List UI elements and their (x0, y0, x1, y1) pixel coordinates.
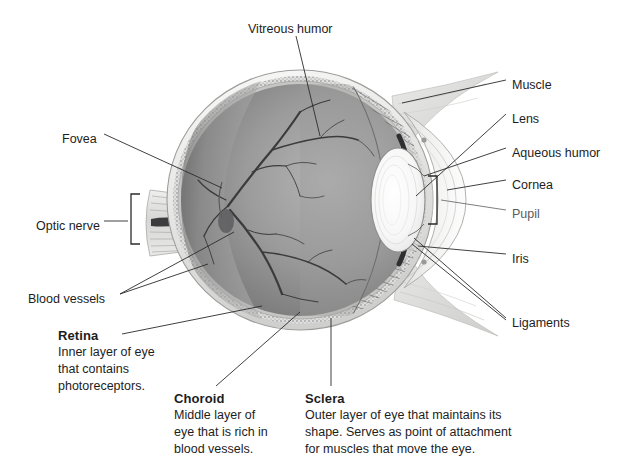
label-fovea: Fovea (62, 131, 97, 148)
optic-nerve-bracket (131, 194, 140, 244)
label-cornea: Cornea (512, 177, 553, 194)
label-optic-nerve: Optic nerve (36, 218, 100, 235)
lens-structure (371, 148, 425, 252)
label-blood-vessels: Blood vessels (28, 291, 105, 308)
definition-sclera-body: Outer layer of eye that maintains its sh… (305, 407, 511, 457)
definition-sclera: Sclera Outer layer of eye that maintains… (305, 390, 511, 457)
definition-choroid: Choroid Middle layer of eye that is rich… (174, 390, 268, 457)
definition-choroid-body: Middle layer of eye that is rich in bloo… (174, 407, 268, 457)
definition-retina-heading: Retina (58, 327, 155, 344)
limbus-marker-top (421, 137, 426, 142)
definition-choroid-heading: Choroid (174, 390, 268, 407)
definition-retina: Retina Inner layer of eye that contains … (58, 327, 155, 394)
label-aqueous-humor: Aqueous humor (512, 145, 600, 162)
label-ligaments: Ligaments (512, 315, 570, 332)
label-lens: Lens (512, 111, 539, 128)
eye-diagram-figure: Vitreous humor Muscle Lens Aqueous humor… (0, 0, 626, 474)
definition-sclera-heading: Sclera (305, 390, 511, 407)
optic-disc (218, 209, 234, 233)
label-iris: Iris (512, 251, 529, 268)
label-pupil: Pupil (512, 206, 540, 223)
definition-retina-body: Inner layer of eye that contains photore… (58, 344, 155, 394)
label-vitreous-humor: Vitreous humor (248, 21, 333, 38)
limbus-marker-bottom (421, 259, 426, 264)
label-muscle: Muscle (512, 77, 552, 94)
